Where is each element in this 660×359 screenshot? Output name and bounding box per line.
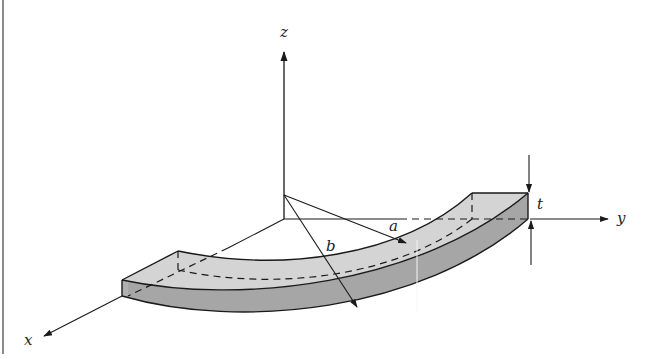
thickness-label: t — [537, 195, 544, 213]
curved-bar-diagram: z y x a b t — [0, 0, 660, 359]
x-axis-label: x — [24, 331, 33, 349]
bar-end-face — [122, 280, 128, 296]
y-axis-label: y — [616, 209, 626, 227]
radius-a-label: a — [389, 217, 398, 235]
thickness-dimension — [529, 155, 531, 265]
z-axis-label: z — [279, 23, 288, 41]
radius-b-label: b — [326, 237, 336, 255]
